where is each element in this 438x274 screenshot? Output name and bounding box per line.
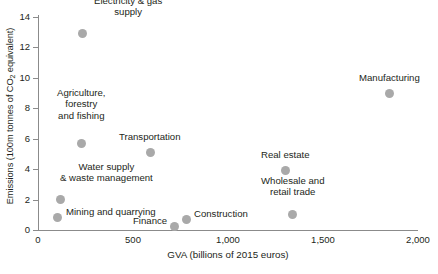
- data-point-marker: [146, 148, 155, 157]
- data-point-marker: [170, 222, 179, 231]
- y-tick-label: 12: [14, 41, 30, 52]
- data-point-marker: [53, 213, 62, 222]
- x-tick-label: 1,000: [198, 234, 258, 245]
- data-point-label: Manufacturing: [359, 72, 420, 83]
- data-point-label: Real estate: [261, 149, 310, 160]
- data-point-label: Wholesale and retail trade: [261, 175, 324, 198]
- x-tick-label: 2,000: [388, 234, 438, 245]
- y-tick-label: 4: [14, 163, 30, 174]
- y-axis-title-text: Emissions (100m tonnes of CO2 equivalent…: [5, 28, 15, 205]
- data-point-marker: [281, 166, 290, 175]
- data-point-label: Electricity & gas supply: [94, 0, 162, 18]
- data-point-label: Finance: [133, 215, 167, 226]
- x-axis-line: [38, 230, 418, 231]
- data-point-marker: [78, 29, 87, 38]
- y-tick-label: 2: [14, 194, 30, 205]
- y-tick-mark: [33, 230, 38, 231]
- data-point-label: Water supply & waste management: [60, 161, 153, 184]
- data-point-marker: [182, 215, 191, 224]
- data-point-marker: [56, 195, 65, 204]
- y-tick-label: 6: [14, 133, 30, 144]
- y-tick-mark: [33, 139, 38, 140]
- y-tick-mark: [33, 200, 38, 201]
- y-tick-mark: [33, 169, 38, 170]
- x-tick-label: 1,500: [293, 234, 353, 245]
- y-tick-mark: [33, 17, 38, 18]
- data-point-marker: [288, 210, 297, 219]
- scatter-chart: Emissions (100m tonnes of CO2 equivalent…: [0, 0, 438, 274]
- data-point-marker: [385, 89, 394, 98]
- y-tick-label: 10: [14, 72, 30, 83]
- data-point-label: Agriculture, forestry and fishing: [57, 87, 106, 121]
- data-point-label: Transportation: [119, 131, 181, 142]
- y-tick-label: 8: [14, 102, 30, 113]
- y-tick-label: 14: [14, 11, 30, 22]
- data-point-label: Construction: [194, 208, 248, 219]
- x-axis-title: GVA (billions of 2015 euros): [38, 249, 418, 260]
- y-tick-mark: [33, 108, 38, 109]
- data-point-marker: [77, 139, 86, 148]
- y-axis-line: [38, 15, 39, 231]
- y-tick-mark: [33, 47, 38, 48]
- x-tick-label: 0: [8, 234, 68, 245]
- x-tick-label: 500: [103, 234, 163, 245]
- y-tick-mark: [33, 78, 38, 79]
